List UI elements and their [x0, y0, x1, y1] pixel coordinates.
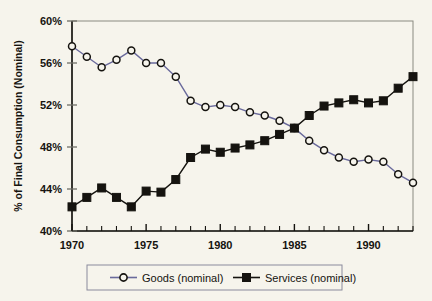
data-point-marker	[69, 43, 76, 50]
data-point-marker	[232, 104, 239, 111]
data-point-marker	[157, 188, 165, 196]
data-point-marker	[142, 187, 150, 195]
data-point-marker	[276, 130, 284, 138]
data-point-marker	[335, 154, 342, 161]
data-point-marker	[127, 203, 135, 211]
data-point-marker	[217, 102, 224, 109]
data-point-marker	[261, 137, 269, 145]
chart-container: 40%44%48%52%56%60% 19701975198019851990 …	[0, 0, 432, 301]
legend-label-goods: Goods (nominal)	[142, 272, 223, 284]
data-point-marker	[365, 99, 373, 107]
y-tick-label: 48%	[40, 141, 62, 153]
data-point-marker	[98, 64, 105, 71]
data-point-marker	[409, 73, 417, 81]
data-point-marker	[231, 144, 239, 152]
data-point-marker	[246, 109, 253, 116]
y-tick-label: 52%	[40, 99, 62, 111]
data-point-marker	[143, 60, 150, 67]
data-point-marker	[410, 179, 417, 186]
y-tick-label: 44%	[40, 183, 62, 195]
x-tick-label: 1975	[134, 239, 158, 251]
data-point-marker	[98, 184, 106, 192]
data-point-marker	[201, 145, 209, 153]
data-point-marker	[350, 158, 357, 165]
data-point-marker	[276, 117, 283, 124]
y-tick-label: 40%	[40, 225, 62, 237]
data-point-marker	[83, 53, 90, 60]
data-point-marker	[305, 112, 313, 120]
data-point-marker	[321, 147, 328, 154]
data-point-marker	[350, 96, 358, 104]
data-point-marker	[320, 102, 328, 110]
data-point-marker	[395, 171, 402, 178]
data-point-marker	[216, 148, 224, 156]
data-point-marker	[290, 124, 298, 132]
data-point-marker	[172, 176, 180, 184]
data-point-marker	[335, 99, 343, 107]
data-point-marker	[83, 193, 91, 201]
y-tick-label: 60%	[40, 15, 62, 27]
data-point-marker	[306, 137, 313, 144]
x-tick-label: 1990	[356, 239, 380, 251]
chart-legend: Goods (nominal) Services (nominal)	[87, 265, 356, 290]
y-axis-title: % of Final Consumption (Nominal)	[12, 40, 24, 212]
data-point-marker	[113, 56, 120, 63]
x-tick-label: 1970	[60, 239, 84, 251]
data-point-marker	[187, 154, 195, 162]
data-point-marker	[68, 203, 76, 211]
line-chart: 40%44%48%52%56%60% 19701975198019851990 …	[0, 0, 432, 301]
data-point-marker	[380, 158, 387, 165]
data-point-marker	[112, 193, 120, 201]
x-tick-label: 1980	[208, 239, 232, 251]
data-point-marker	[246, 141, 254, 149]
data-point-marker	[365, 156, 372, 163]
data-point-marker	[172, 73, 179, 80]
x-tick-label: 1985	[282, 239, 306, 251]
data-point-marker	[261, 112, 268, 119]
legend-services-marker	[243, 274, 251, 282]
y-tick-label: 56%	[40, 57, 62, 69]
legend-goods-marker	[120, 274, 127, 281]
data-point-marker	[128, 47, 135, 54]
data-point-marker	[187, 97, 194, 104]
data-point-marker	[379, 97, 387, 105]
legend-label-services: Services (nominal)	[265, 272, 356, 284]
data-point-marker	[394, 84, 402, 92]
data-point-marker	[202, 104, 209, 111]
data-point-marker	[157, 60, 164, 67]
